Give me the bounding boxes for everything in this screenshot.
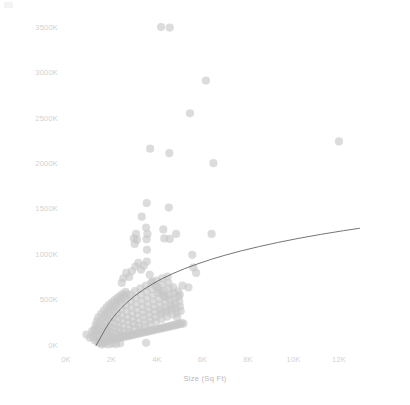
- x-tick-label: 0K: [46, 355, 86, 364]
- scatter-point: [166, 23, 174, 31]
- scatter-point: [146, 145, 154, 153]
- x-tick-label: 6K: [183, 355, 223, 364]
- scatter-point: [116, 339, 124, 347]
- scatter-point: [142, 223, 150, 231]
- x-axis-title: Size (Sq Ft): [0, 374, 410, 383]
- scatter-point: [133, 236, 141, 244]
- scatter-point: [208, 230, 216, 238]
- x-tick-label: 8K: [228, 355, 268, 364]
- plot-area: [0, 0, 410, 405]
- scatter-point: [186, 109, 194, 117]
- scatter-point: [165, 204, 173, 212]
- x-tick-label: 2K: [92, 355, 132, 364]
- scatter-point: [192, 269, 200, 277]
- scatter-point: [335, 137, 343, 145]
- scatter-point: [142, 339, 150, 347]
- scatter-point: [177, 307, 185, 315]
- scatter-point: [157, 23, 165, 31]
- x-tick-label: 10K: [274, 355, 314, 364]
- scatter-point: [88, 327, 96, 335]
- scatter-point: [143, 199, 151, 207]
- scatter-point: [165, 149, 173, 157]
- scatter-point: [188, 251, 196, 259]
- scatter-point: [172, 230, 180, 238]
- x-tick-label: 4K: [137, 355, 177, 364]
- scatter-point: [157, 308, 165, 316]
- scatter-point: [176, 291, 184, 299]
- scatter-chart: 0K500K1000K1500K2000K2500K3000K3500K 0K2…: [0, 0, 410, 405]
- y-tick-label: 1000K: [14, 250, 58, 259]
- scatter-point: [123, 290, 131, 298]
- scatter-point: [202, 77, 210, 85]
- scatter-point: [143, 257, 151, 265]
- y-tick-label: 3500K: [14, 23, 58, 32]
- y-tick-label: 2500K: [14, 114, 58, 123]
- scatter-point: [138, 213, 146, 221]
- y-tick-label: 0K: [14, 341, 58, 350]
- scatter-point: [178, 282, 186, 290]
- y-axis-title: Price: [10, 160, 22, 220]
- scatter-point: [162, 293, 170, 301]
- x-tick-label: 12K: [319, 355, 359, 364]
- scatter-point: [143, 246, 151, 254]
- scatter-point: [179, 319, 187, 327]
- y-tick-label: 500K: [14, 295, 58, 304]
- y-tick-label: 3000K: [14, 68, 58, 77]
- scatter-point: [209, 159, 217, 167]
- scatter-point: [159, 225, 167, 233]
- scatter-points-layer: [82, 23, 343, 349]
